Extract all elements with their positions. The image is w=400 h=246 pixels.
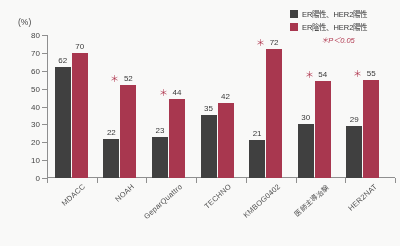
bar-value-label: 62 <box>58 56 67 65</box>
bar: 35 <box>201 115 217 178</box>
y-tick-label: 20 <box>31 138 40 147</box>
bar-value-label: 70 <box>75 42 84 51</box>
legend-item-er-positive: ER陽性、HER2陽性 <box>290 8 394 19</box>
dark-swatch-icon <box>290 10 298 18</box>
bar-value-label: 54 <box>318 70 327 79</box>
x-tick <box>395 178 396 183</box>
legend-label-er-positive: ER陽性、HER2陽性 <box>302 8 367 19</box>
bar: 42 <box>218 103 234 178</box>
y-tick-label: 40 <box>31 102 40 111</box>
legend-item-er-negative: ER陰性、HER2陽性 <box>290 21 394 32</box>
x-axis-label: HER2NAT <box>346 182 379 213</box>
bar-value-label: 35 <box>204 104 213 113</box>
significance-note: ＊P＜0.05 <box>290 34 394 45</box>
x-axis-label: TECHNO <box>203 182 233 211</box>
bar-value-label: 22 <box>107 128 116 137</box>
y-tick-label: 80 <box>31 31 40 40</box>
significance-asterisk: ＊ <box>256 39 265 48</box>
bar-value-label: 52 <box>124 74 133 83</box>
y-tick-label: 0 <box>36 174 40 183</box>
x-axis-label: 医師主導治験 <box>292 182 331 218</box>
y-tick-label: 60 <box>31 66 40 75</box>
x-axis-label: KMBOG0402 <box>241 182 282 220</box>
red-swatch-icon <box>290 23 298 31</box>
bar-value-label: 30 <box>301 113 310 122</box>
bar-group: 2252＊ <box>96 35 145 178</box>
y-tick-label: 50 <box>31 84 40 93</box>
x-axis-label: NOAH <box>113 182 136 204</box>
bar-chart: (%) 01020304050607080 62702252＊2344＊3542… <box>0 0 400 246</box>
x-axis-labels: MDACCNOAHGeparQuattroTECHNOKMBOG0402医師主導… <box>47 182 395 242</box>
bar: 21 <box>249 140 265 178</box>
x-axis-label: GeparQuattro <box>143 182 185 221</box>
bar: 72＊ <box>266 49 282 178</box>
bar-group: 2955＊ <box>338 35 387 178</box>
bar-group: 3054＊ <box>290 35 339 178</box>
bar-value-label: 23 <box>155 126 164 135</box>
legend: ER陽性、HER2陽性 ER陰性、HER2陽性 ＊P＜0.05 <box>290 8 394 45</box>
y-tick-label: 70 <box>31 48 40 57</box>
bar: 55＊ <box>363 80 379 178</box>
significance-asterisk: ＊ <box>159 89 168 98</box>
bar-group: 2172＊ <box>241 35 290 178</box>
bar-groups: 62702252＊2344＊35422172＊3054＊2955＊ <box>47 35 387 178</box>
bar: 52＊ <box>120 85 136 178</box>
bar-group: 3542 <box>193 35 242 178</box>
bar-value-label: 42 <box>221 92 230 101</box>
y-axis-unit-label: (%) <box>18 17 31 27</box>
bar: 23 <box>152 137 168 178</box>
bar: 44＊ <box>169 99 185 178</box>
significance-asterisk: ＊ <box>305 71 314 80</box>
significance-asterisk: ＊ <box>353 70 362 79</box>
bar: 54＊ <box>315 81 331 178</box>
bar: 22 <box>103 139 119 178</box>
y-tick-label: 10 <box>31 156 40 165</box>
bar: 30 <box>298 124 314 178</box>
x-axis-label: MDACC <box>60 182 87 208</box>
significance-asterisk: ＊ <box>110 75 119 84</box>
bar: 62 <box>55 67 71 178</box>
bar-value-label: 44 <box>172 88 181 97</box>
bar-value-label: 29 <box>350 115 359 124</box>
bar-group: 6270 <box>47 35 96 178</box>
bar-group: 2344＊ <box>144 35 193 178</box>
bar-value-label: 72 <box>270 38 279 47</box>
bar-value-label: 55 <box>367 69 376 78</box>
bar: 29 <box>346 126 362 178</box>
bar: 70 <box>72 53 88 178</box>
bar-value-label: 21 <box>253 129 262 138</box>
plot-area: 01020304050607080 62702252＊2344＊35422172… <box>47 35 387 178</box>
y-tick-label: 30 <box>31 120 40 129</box>
legend-label-er-negative: ER陰性、HER2陽性 <box>302 21 367 32</box>
